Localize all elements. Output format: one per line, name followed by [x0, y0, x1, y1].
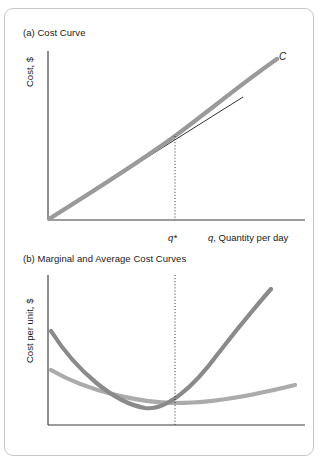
- curve-label-c: C: [279, 51, 286, 62]
- marginal-cost-curve-mc: [51, 289, 271, 408]
- panel-a-x-axis-text: , Quantity per day: [213, 232, 288, 243]
- panel-a-xtick-qstar: q*: [168, 232, 177, 243]
- figure-card: (a) Cost Curve Cost, $ C q* q, Quantity …: [4, 8, 314, 456]
- cost-curve-c: [49, 59, 277, 219]
- panel-b-plot: [5, 245, 315, 457]
- panel-a-x-axis-label: q, Quantity per day: [208, 232, 288, 243]
- panel-a-plot: [5, 9, 315, 245]
- panel-cost-curve: (a) Cost Curve Cost, $ C q* q, Quantity …: [5, 9, 315, 245]
- panel-marginal-average-cost: (b) Marginal and Average Cost Curves Cos…: [5, 245, 315, 457]
